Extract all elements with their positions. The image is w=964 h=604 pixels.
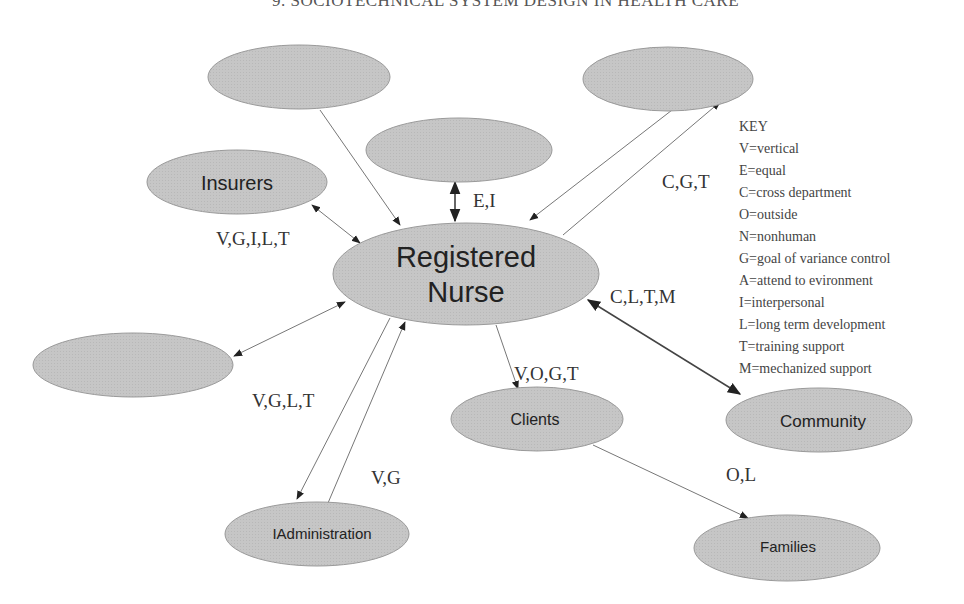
key-item: O=outside [739,207,797,222]
sociotechnical-diagram: Insurers Registered Nurse Clients Commun… [0,0,964,604]
key-item: A=attend to evironment [739,273,873,288]
edge-label-administration-out: V,G,L,T [252,390,315,411]
label-families: Families [760,538,816,555]
label-nurse: Nurse [427,276,504,308]
label-community: Community [780,412,866,431]
edge-top-right-out [563,102,720,235]
node-blank-top-right [583,47,753,111]
key-item: V=vertical [739,141,799,156]
node-blank-left [33,333,233,397]
label-administration: IAdministration [272,525,371,542]
node-registered-nurse [333,223,599,325]
edge-label-top-center: E,I [473,190,496,211]
edge-families [593,445,748,518]
edge-insurers [312,205,360,243]
key-item: I=interpersonal [739,295,825,310]
label-insurers: Insurers [201,172,273,194]
edge-label-clients: V,O,G,T [514,363,579,384]
edge-label-community: C,L,T,M [610,286,676,307]
node-blank-top-left [208,45,390,109]
edge-label-families: O,L [726,464,756,485]
edge-top-right-in [530,100,685,220]
edge-label-administration-in: V,G [371,467,401,488]
key-item: N=nonhuman [739,229,816,244]
label-clients: Clients [511,411,560,428]
key-legend: KEY V=vertical E=equal C=cross departmen… [739,119,890,376]
node-blank-top-center [366,118,552,182]
key-item: L=long term development [739,317,885,332]
key-item: G=goal of variance control [739,251,890,266]
edge-community [588,300,740,394]
edge-label-top-right: C,G,T [662,171,710,192]
label-registered: Registered [396,241,536,273]
key-item: E=equal [739,163,786,178]
edge-label-insurers: V,G,I,L,T [216,228,290,249]
key-item: C=cross department [739,185,852,200]
key-title: KEY [739,119,768,134]
key-item: T=training support [739,339,845,354]
edge-left [234,302,345,356]
key-item: M=mechanized support [739,361,872,376]
